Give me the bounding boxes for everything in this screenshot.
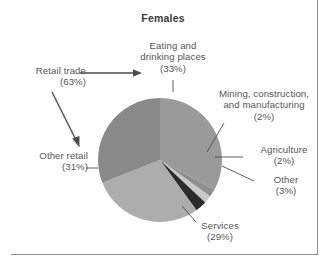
pie-label-mining-construction-and-manufacturing: Mining, construction, and manufacturing … <box>205 88 323 122</box>
pie-label-agriculture-line1: Agriculture <box>261 144 308 155</box>
pie-label-mining-construction-and-manufacturing-percent: (2%) <box>205 111 323 122</box>
pie-label-other-retail: Other retail (31%) <box>4 150 88 173</box>
pie-label-agriculture: Agriculture (2%) <box>246 144 322 167</box>
pie-label-other: Other (3%) <box>255 174 317 197</box>
leader-line-retail-trade-diagonal <box>52 92 76 140</box>
pie-label-retail-trade: Retail trade (63%) <box>6 65 86 88</box>
figure-bottom-rule <box>11 254 317 255</box>
pie-label-eating-and-drinking-places-percent: (33%) <box>125 63 221 74</box>
pie-label-other-line1: Other <box>274 174 299 185</box>
leader-line-other <box>222 166 254 181</box>
pie-label-eating-and-drinking-places: Eating and drinking places (33%) <box>125 40 221 74</box>
pie-label-mining-construction-and-manufacturing-line1: Mining, construction, <box>219 88 309 99</box>
pie-label-retail-trade-line1: Retail trade <box>36 65 86 76</box>
pie-label-mining-construction-and-manufacturing-line2: and manufacturing <box>223 99 304 110</box>
pie-label-agriculture-percent: (2%) <box>246 155 322 166</box>
pie-chart-figure: Females <box>0 0 326 269</box>
pie-slices <box>98 98 222 222</box>
pie-label-other-percent: (3%) <box>255 185 317 196</box>
pie-label-services-line1: Services <box>201 220 239 231</box>
figure-right-rule <box>317 0 318 255</box>
pie-label-eating-and-drinking-places-line2: drinking places <box>140 51 206 62</box>
pie-label-services: Services (29%) <box>186 220 254 243</box>
pie-label-other-retail-line1: Other retail <box>39 150 88 161</box>
pie-label-eating-and-drinking-places-line1: Eating and <box>150 40 197 51</box>
pie-label-services-percent: (29%) <box>186 231 254 242</box>
pie-label-other-retail-percent: (31%) <box>4 161 88 172</box>
pie-label-retail-trade-percent: (63%) <box>6 76 86 87</box>
arrowhead-retail-trade-diagonal <box>72 136 79 148</box>
